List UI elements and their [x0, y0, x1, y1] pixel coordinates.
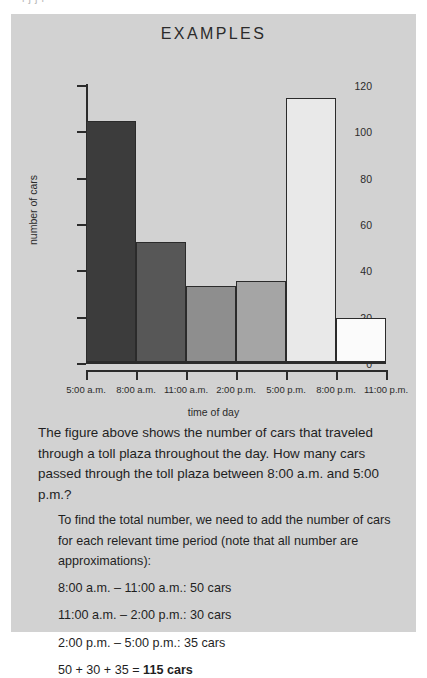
x-axis-tick-label: 11:00 p.m. [351, 384, 421, 395]
cut-off-text: i j j i [22, 0, 44, 4]
solution-line: 11:00 a.m. – 2:00 p.m.: 30 cars [58, 605, 403, 626]
solution-intro: To find the total number, we need to add… [58, 510, 403, 572]
y-axis-tick [77, 224, 86, 226]
bar [186, 286, 236, 362]
bar-series [86, 84, 386, 362]
x-axis-title: time of day [11, 406, 416, 418]
x-axis-tick [236, 370, 238, 380]
content-panel: EXAMPLES number of cars 020406080100120 … [11, 14, 416, 632]
bar [86, 121, 136, 362]
x-axis-tick [186, 370, 188, 380]
bar [336, 318, 386, 362]
bar [286, 98, 336, 362]
bar [236, 281, 286, 362]
y-axis-tick [77, 317, 86, 319]
x-axis-tick [136, 370, 138, 380]
bar-chart: number of cars 020406080100120 5:00 a.m.… [11, 54, 416, 444]
plot-area: 020406080100120 [86, 84, 386, 364]
x-axis-tick-labels: 5:00 a.m.8:00 a.m.11:00 a.m.2:00 p.m.5:0… [11, 384, 416, 398]
solution-block: To find the total number, we need to add… [58, 510, 403, 678]
solution-answer: 115 cars [143, 663, 193, 677]
y-axis-tick [77, 363, 86, 365]
x-axis-tick [336, 370, 338, 380]
solution-line: 8:00 a.m. – 11:00 a.m.: 50 cars [58, 578, 403, 599]
x-axis-ruler [86, 370, 386, 380]
y-axis-tick [77, 131, 86, 133]
y-axis-title: number of cars [27, 150, 39, 270]
x-axis-tick [386, 370, 388, 380]
question-text: The figure above shows the number of car… [38, 423, 398, 505]
page-title: EXAMPLES [11, 25, 416, 43]
y-axis-tick [77, 85, 86, 87]
y-axis-tick [77, 178, 86, 180]
x-axis-tick [286, 370, 288, 380]
solution-total: 50 + 30 + 35 = 115 cars [58, 660, 403, 678]
x-axis-tick [86, 370, 88, 380]
y-axis-tick [77, 270, 86, 272]
solution-total-prefix: 50 + 30 + 35 = [58, 663, 143, 677]
bar [136, 242, 186, 362]
cut-off-text-artifact: i j j i [0, 0, 427, 11]
solution-line: 2:00 p.m. – 5:00 p.m.: 35 cars [58, 633, 403, 654]
